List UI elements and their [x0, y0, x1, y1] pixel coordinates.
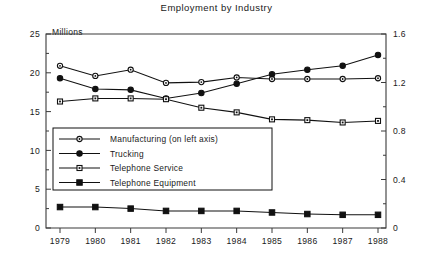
chart-series	[58, 96, 381, 125]
chart-data-point	[375, 76, 380, 81]
x-axis-tick-label: 1980	[85, 236, 105, 246]
left-axis-tick-label: 5	[35, 184, 40, 194]
chart-svg: 051015202500.40.81.21.619791980198119821…	[0, 0, 433, 258]
x-axis-tick-label: 1979	[50, 236, 70, 246]
chart-data-point	[199, 208, 204, 213]
chart-series	[57, 204, 380, 217]
left-axis-tick-label: 15	[30, 107, 40, 117]
chart-data-point	[93, 86, 98, 91]
chart-data-point	[163, 80, 168, 85]
chart-data-point	[163, 208, 168, 213]
chart-data-point	[128, 206, 133, 211]
chart-data-point	[164, 97, 169, 102]
left-axis-tick-label: 0	[35, 223, 40, 233]
chart-data-point	[93, 96, 98, 101]
legend-label: Telephone Equipment	[110, 178, 196, 188]
x-axis-tick-label: 1983	[191, 236, 211, 246]
x-axis-tick-label: 1988	[368, 236, 388, 246]
chart-series	[57, 52, 380, 101]
x-axis-tick-label: 1981	[121, 236, 141, 246]
chart-data-point	[234, 110, 239, 115]
chart-data-point	[57, 63, 62, 68]
legend-label: Trucking	[110, 149, 144, 159]
chart-legend: Manufacturing (on left axis)TruckingTele…	[53, 128, 272, 190]
chart-data-point	[57, 204, 62, 209]
chart-data-point	[269, 210, 274, 215]
x-axis-tick-label: 1984	[227, 236, 247, 246]
chart-data-point	[305, 67, 310, 72]
chart-data-point	[234, 81, 239, 86]
left-axis-tick-label: 20	[30, 68, 40, 78]
chart-container: Employment by Industry Millions 05101520…	[0, 0, 433, 258]
right-axis-tick-label: 0.4	[393, 175, 406, 185]
chart-data-point	[340, 212, 345, 217]
x-axis-tick-label: 1987	[333, 236, 353, 246]
chart-data-point	[199, 105, 204, 110]
chart-data-point	[375, 212, 380, 217]
chart-data-point	[270, 117, 275, 122]
chart-data-point	[199, 90, 204, 95]
right-axis-tick-label: 0.8	[393, 126, 406, 136]
right-axis-tick-label: 0	[393, 223, 398, 233]
chart-data-point	[340, 63, 345, 68]
left-axis-tick-label: 10	[30, 146, 40, 156]
x-axis-tick-label: 1982	[156, 236, 176, 246]
chart-data-point	[128, 87, 133, 92]
chart-data-point	[57, 76, 62, 81]
chart-data-point	[375, 52, 380, 57]
right-axis-tick-label: 1.2	[393, 78, 406, 88]
chart-data-point	[305, 76, 310, 81]
x-axis-tick-label: 1985	[262, 236, 282, 246]
chart-data-point	[234, 208, 239, 213]
chart-data-point	[305, 118, 310, 123]
chart-data-point	[305, 211, 310, 216]
chart-data-point	[93, 204, 98, 209]
chart-data-point	[376, 118, 381, 123]
chart-data-point	[128, 67, 133, 72]
chart-data-point	[93, 73, 98, 78]
chart-data-point	[128, 96, 133, 101]
right-axis-tick-label: 1.6	[393, 29, 406, 39]
chart-data-point	[199, 80, 204, 85]
x-axis-tick-label: 1986	[297, 236, 317, 246]
chart-data-point	[234, 75, 239, 80]
left-axis-tick-label: 25	[30, 29, 40, 39]
chart-data-point	[269, 72, 274, 77]
chart-data-point	[58, 99, 63, 104]
legend-label: Telephone Service	[110, 163, 183, 173]
chart-data-point	[340, 76, 345, 81]
legend-label: Manufacturing (on left axis)	[110, 134, 218, 144]
chart-data-point	[340, 120, 345, 125]
